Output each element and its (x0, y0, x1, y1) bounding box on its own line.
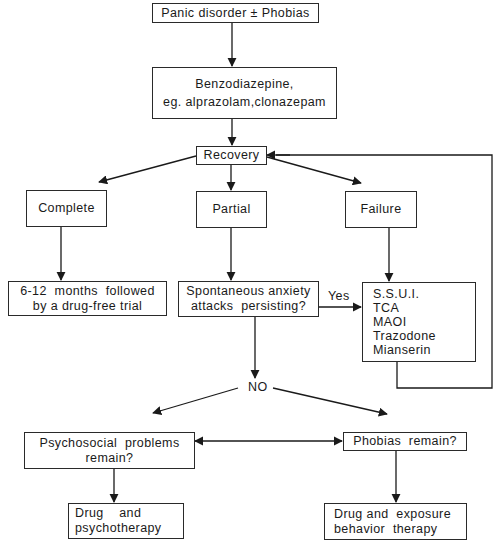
node-label: Complete (38, 201, 95, 216)
node-line: Benzodiazepine, (195, 75, 293, 93)
node-line: attacks persisting? (191, 299, 306, 314)
node-partial: Partial (196, 191, 267, 228)
node-line: eg. alprazolam,clonazepam (163, 93, 326, 111)
node-line: Drug and (75, 506, 183, 521)
arrow-recovery-to-failure (267, 157, 361, 183)
node-line: behavior therapy (334, 522, 466, 537)
arrow-recovery-to-complete (99, 156, 196, 182)
node-label: Partial (212, 202, 250, 217)
node-label: Phobias remain? (353, 434, 457, 449)
flowchart-canvas: Panic disorder ± Phobias Benzodiazepine,… (0, 0, 495, 547)
node-spontaneous-attacks: Spontaneous anxiety attacks persisting? (178, 281, 319, 317)
node-label: Panic disorder ± Phobias (161, 6, 309, 21)
node-line: Drug and exposure (334, 507, 466, 522)
node-benzodiazepine: Benzodiazepine, eg. alprazolam,clonazepa… (152, 67, 337, 119)
node-phobias-remain: Phobias remain? (343, 432, 467, 451)
arrow-no-to-phobias (273, 388, 387, 414)
node-drug-psychotherapy: Drug and psychotherapy (68, 503, 184, 539)
edge-label-no: NO (246, 380, 270, 394)
node-recovery: Recovery (196, 146, 267, 165)
node-line: Psychosocial problems (39, 436, 179, 451)
edge-label-yes: Yes (328, 289, 350, 303)
node-line: psychotherapy (75, 521, 183, 536)
node-alternative-drugs: S.S.U.I. TCA MAOI Trazodone Mianserin (362, 282, 476, 362)
node-complete: Complete (26, 190, 107, 227)
arrow-no-to-psychosocial (153, 388, 238, 413)
node-panic-disorder: Panic disorder ± Phobias (152, 3, 319, 23)
node-label: Failure (360, 202, 401, 217)
node-line: remain? (86, 451, 134, 466)
drug-item: S.S.U.I. (373, 287, 475, 301)
drug-item: TCA (373, 301, 475, 315)
node-line: Spontaneous anxiety (186, 284, 310, 299)
drug-item: Mianserin (373, 343, 475, 357)
node-label: Recovery (204, 148, 260, 163)
node-psychosocial-problems: Psychosocial problems remain? (24, 432, 195, 469)
drug-item: MAOI (373, 315, 475, 329)
node-drug-exposure-therapy: Drug and exposure behavior therapy (324, 503, 467, 540)
node-line: by a drug-free trial (33, 299, 142, 314)
node-failure: Failure (345, 191, 417, 228)
node-line: 6-12 months followed (20, 284, 155, 299)
drug-item: Trazodone (373, 329, 475, 343)
node-maintenance: 6-12 months followed by a drug-free tria… (8, 281, 167, 316)
